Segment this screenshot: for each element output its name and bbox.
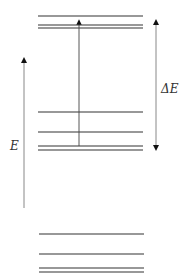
- energy-level-diagram: E ΔE: [0, 0, 189, 280]
- energy-axis-label: E: [9, 139, 19, 153]
- lower-level-group: [39, 234, 144, 272]
- upper-level-group: [38, 16, 143, 28]
- delta-e-label: ΔE: [160, 82, 179, 96]
- middle-level-group: [38, 112, 143, 150]
